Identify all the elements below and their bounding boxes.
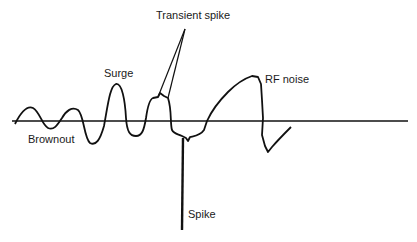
spike-line <box>182 138 183 230</box>
transient-leader-left <box>158 29 185 97</box>
brownout-label: Brownout <box>28 134 74 145</box>
power-disturbance-diagram: Transient spike Surge RF noise Brownout … <box>0 0 417 242</box>
transient-leader-right <box>168 29 185 98</box>
transient-spike-label: Transient spike <box>156 10 230 21</box>
spike-label: Spike <box>188 209 216 220</box>
waveform-graphic <box>0 0 417 242</box>
surge-label: Surge <box>104 68 133 79</box>
rf-noise-label: RF noise <box>265 74 309 85</box>
